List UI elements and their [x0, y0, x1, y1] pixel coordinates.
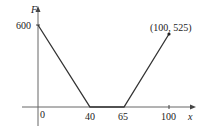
chart: F 600 0 40 65 100 x (100, 525)	[0, 0, 203, 137]
x-axis-label: x	[187, 111, 193, 122]
data-line	[38, 25, 169, 107]
x-tick-label-40: 40	[85, 111, 95, 122]
x-axis-arrow-icon	[190, 105, 196, 110]
y-tick-label-600: 600	[16, 20, 31, 31]
y-axis-label: F	[30, 4, 38, 15]
x-tick-label-100: 100	[161, 111, 176, 122]
x-tick-label-65: 65	[118, 111, 128, 122]
point-annotation: (100, 525)	[150, 22, 192, 34]
x-tick-label-0: 0	[40, 109, 45, 120]
